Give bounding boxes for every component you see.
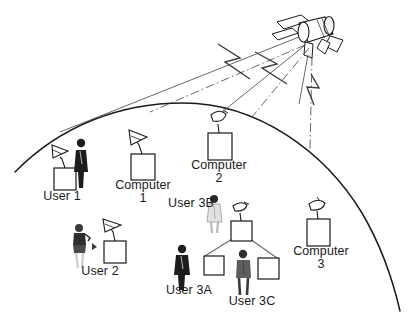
label-user-3a: User 3A	[166, 284, 212, 297]
dish-antenna-icon	[309, 197, 325, 210]
user-3a-computer[interactable]	[204, 256, 224, 275]
beam-center	[221, 46, 309, 117]
solar-panel-right	[317, 36, 343, 54]
label-computer-1-line-2: 1	[115, 192, 171, 205]
label-user-2: User 2	[81, 265, 118, 278]
user-2-terminal[interactable]	[103, 219, 126, 263]
label-user-3c: User 3C	[229, 295, 276, 308]
label-computer-2-line-2: 2	[191, 172, 247, 185]
label-user-3b-line-1: User 3B	[168, 197, 214, 210]
label-user-1: User 1	[43, 190, 80, 203]
dish-antenna-icon	[52, 145, 68, 158]
user-2-person[interactable]	[73, 224, 97, 268]
user-3c-computer[interactable]	[258, 258, 279, 279]
label-user-3a-line-1: User 3A	[166, 284, 212, 297]
label-user-2-line-1: User 2	[81, 265, 118, 278]
label-user-1-line-1: User 1	[43, 190, 80, 203]
dish-antenna-icon	[211, 110, 228, 121]
antenna-feed-horn	[304, 42, 313, 58]
user-3-hub-terminal[interactable]	[231, 202, 252, 241]
label-user-3c-line-1: User 3C	[229, 295, 276, 308]
label-computer-1: Computer 1	[115, 179, 171, 205]
beam-left	[60, 37, 305, 132]
computer-2-terminal[interactable]	[208, 110, 232, 160]
computer-3-terminal[interactable]	[307, 197, 330, 246]
dish-antenna-icon	[233, 202, 249, 211]
user-1-terminal[interactable]	[52, 145, 76, 190]
computer-1-terminal[interactable]	[129, 130, 155, 180]
label-computer-2: Computer 2	[191, 159, 247, 185]
label-user-3b: User 3B	[168, 197, 214, 210]
label-computer-3-line-2: 3	[293, 258, 349, 271]
satellite-network-diagram: User 1 Computer 1 Computer 2 User 3B Use…	[0, 0, 414, 325]
beam-right	[299, 55, 319, 150]
label-computer-3: Computer 3	[293, 245, 349, 271]
user-3c-person[interactable]	[236, 250, 251, 295]
satellite	[272, 15, 343, 58]
